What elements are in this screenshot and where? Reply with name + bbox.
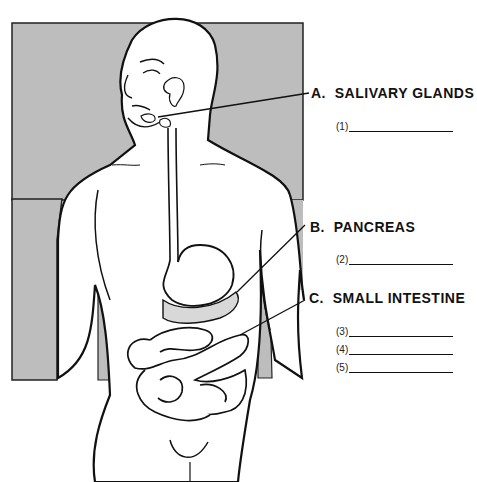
answer-blank-5[interactable]: (5) (336, 362, 453, 373)
answer-blank-1[interactable]: (1) (336, 121, 453, 132)
anatomy-illustration (0, 0, 477, 482)
label-b-text: PANCREAS (334, 219, 416, 235)
label-c: C. SMALL INTESTINE (309, 290, 465, 306)
answer-blank-2[interactable]: (2) (336, 254, 453, 265)
blank-number: (5) (336, 362, 348, 373)
blank-number: (3) (336, 326, 348, 337)
answer-blank-4[interactable]: (4) (336, 344, 453, 355)
label-c-letter: C. (309, 290, 324, 306)
blank-line[interactable] (349, 345, 453, 355)
label-b: B. PANCREAS (310, 219, 415, 235)
sublingual-gland (160, 118, 171, 127)
blank-number: (2) (336, 254, 348, 265)
blank-number: (4) (336, 344, 348, 355)
blank-line[interactable] (349, 255, 453, 265)
blank-line[interactable] (349, 363, 453, 373)
clavicle-left (112, 165, 140, 166)
blank-line[interactable] (349, 122, 453, 132)
blank-line[interactable] (349, 327, 453, 337)
background-panel-left-strip (12, 199, 62, 380)
label-a: A. SALIVARY GLANDS (311, 85, 474, 101)
blank-number: (1) (336, 121, 348, 132)
label-a-text: SALIVARY GLANDS (335, 85, 474, 101)
label-b-letter: B. (310, 219, 325, 235)
answer-blank-3[interactable]: (3) (336, 326, 453, 337)
label-a-letter: A. (311, 85, 326, 101)
label-c-text: SMALL INTESTINE (333, 290, 465, 306)
